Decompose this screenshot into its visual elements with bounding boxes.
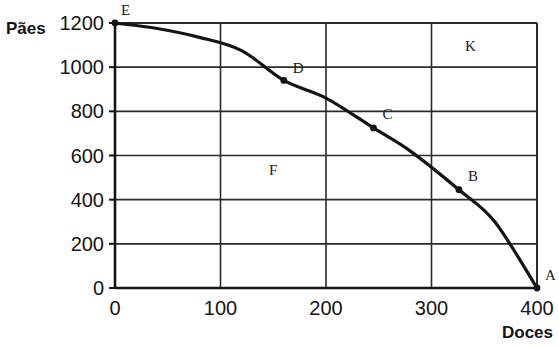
x-tick-label: 0 (109, 297, 120, 319)
x-tick-label: 400 (520, 297, 553, 319)
x-axis-title: Doces (502, 323, 553, 342)
y-tick-label: 600 (71, 145, 104, 167)
data-point-label: D (293, 60, 304, 76)
data-point-marker (534, 285, 541, 292)
x-tick-label: 300 (415, 297, 448, 319)
grid-lines (115, 23, 537, 288)
x-tick-label: 200 (309, 297, 342, 319)
data-point-marker (456, 186, 463, 193)
y-tick-label: 1000 (60, 56, 105, 78)
ppf-chart: 0100200300400 020040060080010001200 ABCD… (0, 0, 559, 347)
region-label: F (269, 162, 277, 178)
data-point-marker (370, 124, 377, 131)
x-tick-label: 100 (204, 297, 237, 319)
y-tick-label: 0 (93, 277, 104, 299)
y-tick-labels: 020040060080010001200 (60, 12, 105, 299)
y-tick-label: 1200 (60, 12, 105, 34)
y-axis-title: Pães (6, 19, 46, 38)
data-point-marker (280, 77, 287, 84)
y-tick-label: 800 (71, 100, 104, 122)
region-label: K (465, 38, 476, 54)
data-point-label: C (382, 106, 392, 122)
data-points: ABCDE (112, 2, 556, 291)
y-tick-label: 200 (71, 233, 104, 255)
data-point-label: B (468, 168, 478, 184)
data-point-label: A (545, 267, 556, 283)
region-labels: FK (269, 38, 476, 179)
data-point-marker (112, 20, 119, 27)
data-point-label: E (121, 2, 130, 18)
x-tick-labels: 0100200300400 (109, 297, 553, 319)
chart-canvas: 0100200300400 020040060080010001200 ABCD… (0, 0, 559, 347)
y-tick-label: 400 (71, 189, 104, 211)
